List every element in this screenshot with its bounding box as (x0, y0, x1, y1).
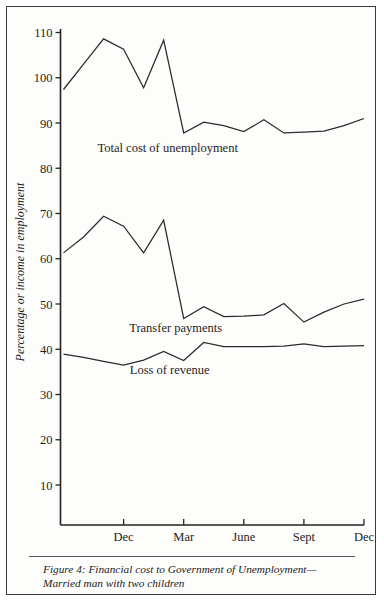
caption-divider (29, 556, 355, 557)
y-axis: 102030405060708090100110 (34, 26, 61, 525)
series-line-1 (64, 216, 365, 322)
x-tick-label: Sept (293, 530, 316, 544)
y-tick-label: 50 (40, 298, 53, 312)
line-chart: 102030405060708090100110 Dec1977MarJune1… (7, 7, 377, 547)
y-tick-label: 60 (40, 252, 53, 266)
y-tick-label: 80 (40, 162, 53, 176)
series-annotation-2: Loss of revenue (130, 363, 210, 377)
y-tick-label: 40 (40, 343, 53, 357)
series-annotation-0: Total cost of unemployment (97, 141, 238, 155)
y-tick-label: 110 (34, 26, 52, 40)
y-axis-title: Percentage or income in employment (13, 182, 27, 362)
x-tick-label: June (232, 530, 255, 544)
y-axis-title-text: Percentage or income in employment (13, 182, 27, 362)
figure-frame: 102030405060708090100110 Dec1977MarJune1… (6, 6, 376, 595)
x-tick-label: Dec (114, 530, 135, 544)
chart-plot-area: 102030405060708090100110 Dec1977MarJune1… (7, 7, 377, 547)
figure-caption: Figure 4: Financial cost to Government o… (43, 563, 351, 590)
y-tick-label: 90 (40, 117, 53, 131)
y-tick-label: 30 (40, 388, 53, 402)
y-tick-label: 100 (34, 71, 53, 85)
series-annotation-1: Transfer payments (129, 321, 222, 335)
x-tick-year-label: 1978 (231, 544, 256, 547)
series-line-0 (64, 39, 365, 133)
x-axis: Dec1977MarJune1978SeptDec (61, 519, 375, 547)
series-annotations: Total cost of unemploymentTransfer payme… (97, 141, 238, 377)
series-line-2 (64, 342, 365, 365)
series-lines (64, 39, 365, 365)
x-tick-label: Dec (354, 530, 375, 544)
y-tick-label: 70 (40, 207, 53, 221)
y-tick-label: 20 (40, 433, 53, 447)
x-tick-year-label: 1977 (111, 544, 136, 547)
y-tick-label: 10 (40, 479, 53, 493)
x-tick-label: Mar (173, 530, 195, 544)
